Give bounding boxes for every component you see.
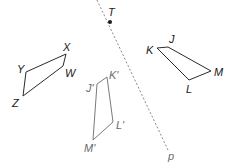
line-p [97,0,168,150]
label-m: M [214,66,224,78]
label-k-prime: K' [109,69,119,81]
point-t [108,20,112,24]
quadrilateral-jklm [157,47,211,80]
label-j-prime: J' [85,82,95,94]
label-p: p [167,150,174,162]
label-l-prime: L' [116,119,125,131]
reflection-diagram: T p Y X W Z K J M L J' K' L' M' [0,0,235,163]
label-y: Y [17,63,25,75]
quadrilateral-jklm-prime [93,77,113,140]
label-t: T [108,6,116,18]
label-j: J [168,33,175,45]
label-x: X [62,41,71,53]
label-m-prime: M' [84,142,96,154]
label-l: L [186,83,192,95]
label-z: Z [11,97,20,109]
label-w: W [65,67,77,79]
label-k: K [146,44,154,56]
quadrilateral-wxyz [23,54,66,96]
